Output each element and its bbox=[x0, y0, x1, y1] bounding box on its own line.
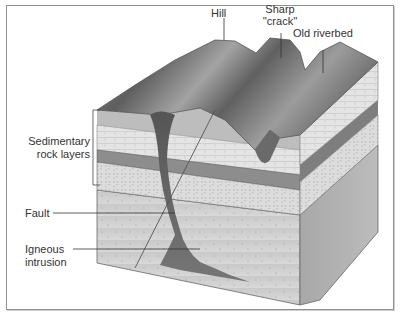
label-sharp: Sharp bbox=[259, 3, 301, 15]
label-igneous: Igneous bbox=[25, 243, 64, 255]
label-rock-layers: rock layers bbox=[10, 148, 90, 160]
label-intrusion: intrusion bbox=[25, 256, 67, 268]
label-old-riverbed: Old riverbed bbox=[293, 27, 353, 39]
label-crack: ''crack'' bbox=[259, 15, 301, 27]
label-hill: Hill bbox=[211, 7, 226, 19]
label-fault: Fault bbox=[25, 207, 49, 219]
label-sedimentary: Sedimentary bbox=[10, 135, 90, 147]
